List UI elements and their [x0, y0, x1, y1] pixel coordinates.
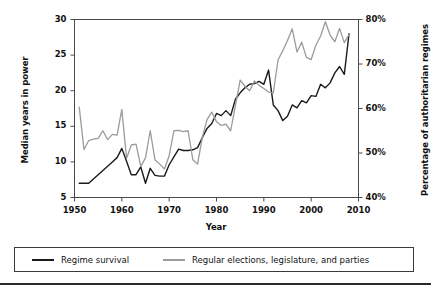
page-bottom-rule — [0, 283, 431, 285]
legend-line-swatch-1 — [163, 259, 185, 261]
legend-line-swatch-0 — [32, 259, 54, 261]
chart-figure: Median years in power Percentage of auth… — [0, 0, 431, 289]
chart-legend: Regime survival Regular elections, legis… — [14, 247, 414, 272]
legend-label-0: Regime survival — [61, 255, 129, 265]
legend-label-1: Regular elections, legislature, and part… — [192, 255, 369, 265]
plot-area — [0, 0, 431, 289]
legend-entry-regular-elections[interactable]: Regular elections, legislature, and part… — [163, 248, 369, 271]
legend-entry-regime-survival[interactable]: Regime survival — [32, 248, 129, 271]
